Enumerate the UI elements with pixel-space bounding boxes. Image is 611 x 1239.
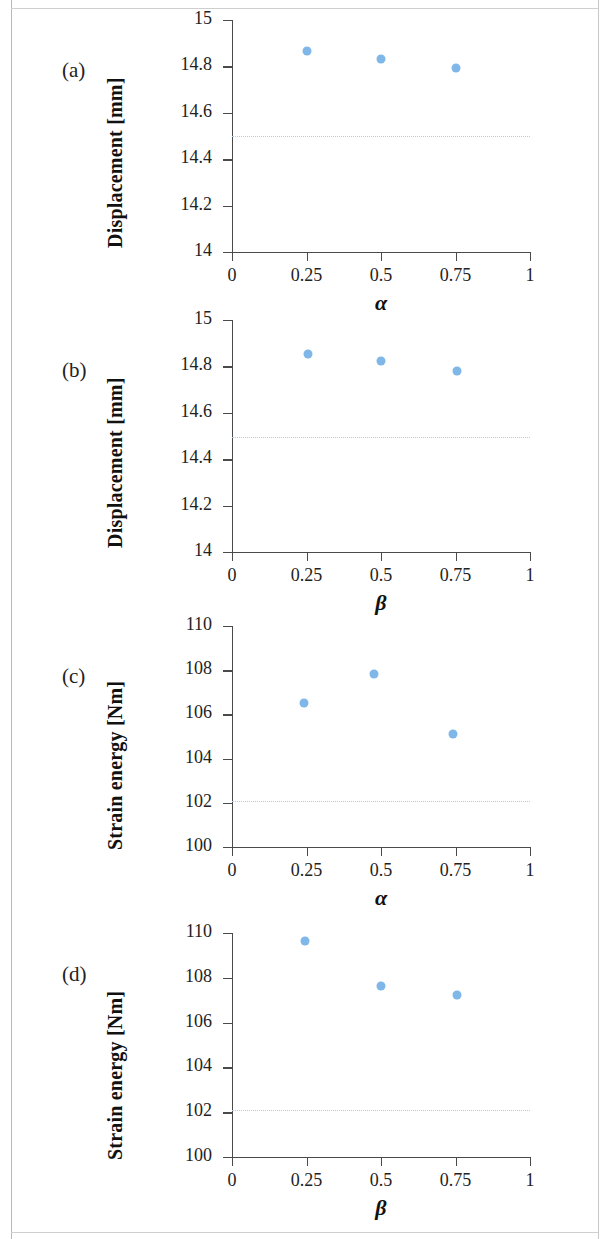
page-border-top <box>11 8 599 9</box>
x-axis-tick-label: 0 <box>192 565 272 586</box>
x-axis-tick-label: 0.25 <box>267 565 347 586</box>
x-axis-tick-label: 0.5 <box>341 1170 421 1191</box>
y-axis-tick-label: 14.4 <box>137 447 212 468</box>
y-axis-label: Displacement [mm] <box>104 377 127 548</box>
x-axis-tick-label: 0.5 <box>341 860 421 881</box>
x-axis-tick <box>307 1157 308 1166</box>
x-axis-tick-label: 0 <box>192 265 272 286</box>
y-axis-tick-label: 110 <box>137 614 212 635</box>
y-axis-tick <box>223 847 232 848</box>
data-point <box>448 730 457 739</box>
y-axis-tick <box>223 626 232 627</box>
y-axis-tick-label: 14.2 <box>137 194 212 215</box>
x-axis-tick <box>530 1157 531 1166</box>
x-axis-label: β <box>341 590 421 616</box>
x-axis-tick <box>381 847 382 856</box>
x-axis-tick <box>381 552 382 561</box>
x-axis-tick-label: 0 <box>192 1170 272 1191</box>
x-axis-tick-label: 1 <box>490 265 570 286</box>
data-point <box>302 47 311 56</box>
y-axis-tick <box>223 252 232 253</box>
panel-label: (d) <box>62 962 87 987</box>
y-axis-tick-label: 14.8 <box>137 354 212 375</box>
y-axis-tick-label: 106 <box>137 1011 212 1032</box>
y-axis-tick-label: 15 <box>137 308 212 329</box>
x-axis-label: α <box>341 885 421 911</box>
y-axis-tick <box>223 933 232 934</box>
y-axis-tick-label: 14 <box>137 540 212 561</box>
y-axis-label: Displacement [mm] <box>104 77 127 248</box>
x-axis-tick <box>456 552 457 561</box>
reference-line <box>232 437 530 438</box>
y-axis-tick-label: 14.8 <box>137 54 212 75</box>
y-axis-tick <box>223 670 232 671</box>
x-axis-tick <box>232 1157 233 1166</box>
x-axis-tick-label: 0.75 <box>416 1170 496 1191</box>
x-axis-tick <box>530 552 531 561</box>
y-axis-tick-label: 102 <box>137 791 212 812</box>
data-point <box>452 990 461 999</box>
y-axis-tick <box>223 506 232 507</box>
x-axis-label: β <box>341 1195 421 1221</box>
page-border-left <box>11 0 12 1239</box>
x-axis-tick-label: 0.25 <box>267 860 347 881</box>
x-axis-tick-label: 1 <box>490 860 570 881</box>
page-border-bottom <box>11 1232 599 1233</box>
x-axis-tick-label: 1 <box>490 565 570 586</box>
y-axis-tick-label: 104 <box>137 747 212 768</box>
y-axis-label: Strain energy [Nm] <box>104 681 127 850</box>
y-axis-tick-label: 100 <box>137 1145 212 1166</box>
x-axis-tick <box>381 252 382 261</box>
data-point <box>369 669 378 678</box>
y-axis-tick <box>223 1112 232 1113</box>
reference-line <box>232 1110 530 1111</box>
y-axis-tick <box>223 714 232 715</box>
x-axis-tick-label: 0 <box>192 860 272 881</box>
data-point <box>377 356 386 365</box>
x-axis-tick <box>456 847 457 856</box>
panel-label: (b) <box>62 358 87 383</box>
x-axis-tick-label: 1 <box>490 1170 570 1191</box>
y-axis-tick-label: 108 <box>137 658 212 679</box>
x-axis-tick-label: 0.5 <box>341 265 421 286</box>
x-axis-tick <box>307 252 308 261</box>
y-axis-tick <box>223 159 232 160</box>
y-axis-tick <box>223 459 232 460</box>
data-point <box>452 367 461 376</box>
x-axis-tick <box>381 1157 382 1166</box>
y-axis-tick-label: 102 <box>137 1100 212 1121</box>
data-point <box>451 63 460 72</box>
y-axis-tick-label: 15 <box>137 8 212 29</box>
x-axis-tick <box>530 252 531 261</box>
x-axis-tick <box>232 252 233 261</box>
y-axis-tick <box>223 1023 232 1024</box>
x-axis-tick-label: 0.5 <box>341 565 421 586</box>
y-axis-tick-label: 100 <box>137 835 212 856</box>
y-axis-tick <box>223 413 232 414</box>
y-axis-tick <box>223 206 232 207</box>
data-point <box>299 699 308 708</box>
x-axis-tick-label: 0.75 <box>416 565 496 586</box>
y-axis-line <box>232 320 233 552</box>
y-axis-tick-label: 106 <box>137 702 212 723</box>
page-border-right <box>598 0 599 1239</box>
panel-label: (c) <box>62 664 85 689</box>
y-axis-tick-label: 108 <box>137 966 212 987</box>
y-axis-tick-label: 110 <box>137 921 212 942</box>
y-axis-tick <box>223 20 232 21</box>
y-axis-tick-label: 14.6 <box>137 401 212 422</box>
y-axis-tick <box>223 113 232 114</box>
y-axis-tick-label: 14.4 <box>137 147 212 168</box>
x-axis-label: α <box>341 290 421 316</box>
reference-line <box>232 801 530 802</box>
y-axis-line <box>232 626 233 847</box>
figure-page: (a)Displacement [mm]1414.214.414.614.815… <box>0 0 611 1239</box>
panel-label: (a) <box>62 58 85 83</box>
reference-line <box>232 136 530 137</box>
data-point <box>301 936 310 945</box>
y-axis-tick <box>223 320 232 321</box>
y-axis-tick <box>223 552 232 553</box>
y-axis-tick-label: 14.6 <box>137 101 212 122</box>
data-point <box>303 349 312 358</box>
data-point <box>377 55 386 64</box>
